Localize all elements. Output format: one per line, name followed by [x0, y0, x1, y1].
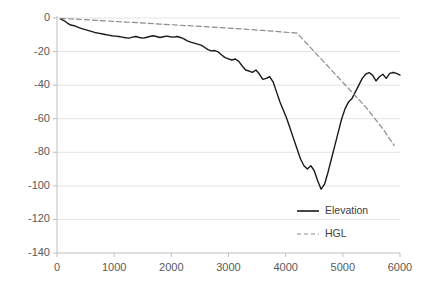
y-tick-label: -80 — [8, 145, 50, 157]
series-line-elevation — [60, 19, 393, 189]
x-tick-label: 5000 — [318, 261, 368, 273]
y-tick-label: -20 — [8, 45, 50, 57]
chart-plot-area — [0, 0, 424, 297]
series-line-elevation-tail — [393, 73, 400, 76]
x-tick-label: 3000 — [204, 261, 254, 273]
elevation-hgl-chart: 0-20-40-60-80-100-120-140 01000200030004… — [0, 0, 424, 297]
y-tick-label: -140 — [8, 246, 50, 258]
y-tick-label: 0 — [8, 11, 50, 23]
y-tick-label: -40 — [8, 78, 50, 90]
legend-label-hgl: HGL — [325, 227, 347, 239]
x-tick-label: 4000 — [261, 261, 311, 273]
x-tick-label: 1000 — [89, 261, 139, 273]
data-series-group — [60, 18, 400, 189]
legend-marks — [297, 211, 319, 234]
x-tick-label: 2000 — [146, 261, 196, 273]
y-tick-label: -100 — [8, 179, 50, 191]
gridlines — [57, 18, 400, 253]
y-tick-label: -120 — [8, 212, 50, 224]
x-tick-label: 0 — [32, 261, 82, 273]
legend-label-elevation: Elevation — [325, 204, 368, 216]
series-line-hgl — [60, 18, 394, 145]
x-tick-label: 6000 — [375, 261, 424, 273]
tick-marks — [53, 18, 400, 257]
y-tick-label: -60 — [8, 112, 50, 124]
